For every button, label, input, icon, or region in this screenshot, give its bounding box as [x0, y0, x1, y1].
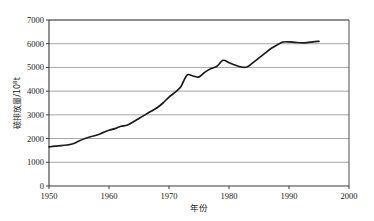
x-tick-label-2000: 2000 [341, 191, 358, 201]
y-tick-label-7000: 7000 [27, 15, 44, 25]
x-tick-labels-group: 195019601970198019902000 [41, 191, 358, 201]
y-tick-label-5000: 5000 [27, 62, 44, 72]
y-axis-title-unit: t [13, 77, 22, 80]
y-tick-labels-group: 01000200030004000500060007000 [27, 15, 44, 191]
y-tick-label-3000: 3000 [27, 110, 44, 120]
line-chart: 01000200030004000500060007000 1950196019… [0, 0, 374, 221]
gridlines-group [49, 20, 349, 162]
y-tick-label-1000: 1000 [27, 157, 44, 167]
x-axis-title: 年份 [190, 203, 208, 213]
x-tick-label-1950: 1950 [41, 191, 58, 201]
plot-frame [49, 20, 349, 186]
x-tick-label-1970: 1970 [161, 191, 178, 201]
y-axis-title: 碳排放量/108t [12, 77, 22, 129]
x-tick-label-1990: 1990 [281, 191, 298, 201]
y-tick-label-0: 0 [40, 181, 44, 191]
series-line-0 [49, 41, 319, 147]
svg-text:碳排放量/108t: 碳排放量/108t [12, 77, 22, 129]
series-group [49, 41, 319, 147]
x-tick-label-1980: 1980 [221, 191, 238, 201]
y-tick-label-6000: 6000 [27, 39, 44, 49]
y-tick-label-4000: 4000 [27, 86, 44, 96]
y-axis-title-base: 碳排放量/10 [12, 84, 22, 129]
tick-marks-group [46, 20, 349, 189]
x-tick-label-1960: 1960 [101, 191, 118, 201]
y-tick-label-2000: 2000 [27, 134, 44, 144]
chart-container: 01000200030004000500060007000 1950196019… [0, 0, 374, 221]
x-axis-title-label: 年份 [190, 203, 208, 213]
